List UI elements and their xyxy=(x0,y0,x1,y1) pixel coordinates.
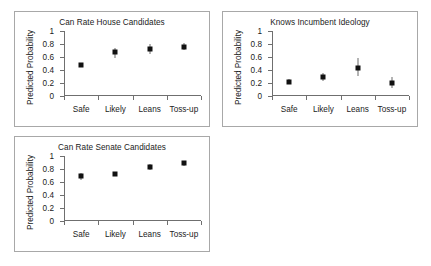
y-axis-tick-label: 1 xyxy=(49,27,54,36)
data-point-marker xyxy=(113,171,118,176)
panel-knows-incumbent-ideology: Knows Incumbent Ideology Predicted Proba… xyxy=(222,11,418,127)
x-axis-tick xyxy=(133,221,134,225)
x-axis-category-label: Leans xyxy=(346,105,368,114)
y-axis-label: Predicted Probability xyxy=(26,147,35,239)
y-axis-tick: 0.6 xyxy=(268,57,272,58)
panel-can-rate-senate-candidates: Can Rate Senate Candidates Predicted Pro… xyxy=(14,136,210,252)
x-axis-category-label: Toss-up xyxy=(170,105,199,114)
x-axis-tick xyxy=(306,96,307,100)
y-axis-tick-label: 0.4 xyxy=(43,66,54,75)
y-axis-tick-label: 0.6 xyxy=(43,53,54,62)
data-point-marker xyxy=(181,161,186,166)
y-axis-tick-label: 0 xyxy=(257,92,262,101)
data-point-marker xyxy=(389,81,394,86)
y-axis-tick-label: 0.2 xyxy=(43,204,54,213)
x-axis-tick xyxy=(167,96,168,100)
y-axis-line xyxy=(64,156,65,221)
x-axis-tick xyxy=(201,96,202,100)
y-axis-label: Predicted Probability xyxy=(26,22,35,114)
x-axis-tick xyxy=(167,221,168,225)
plot-area-knows: 10.80.60.40.20SafeLikelyLeansToss-up xyxy=(272,31,409,96)
plot-area-house: 10.80.60.40.20SafeLikelyLeansToss-up xyxy=(64,31,201,96)
y-axis-tick: 1 xyxy=(268,31,272,32)
x-axis-tick xyxy=(98,221,99,225)
x-axis-category-label: Safe xyxy=(281,105,298,114)
y-axis-tick: 1 xyxy=(60,156,64,157)
data-point-marker xyxy=(79,63,84,68)
x-axis-tick xyxy=(341,96,342,100)
x-axis-category-label: Toss-up xyxy=(378,105,407,114)
y-axis-tick-label: 0.2 xyxy=(251,79,262,88)
x-axis-tick xyxy=(201,221,202,225)
y-axis-tick-label: 0.6 xyxy=(43,178,54,187)
x-axis-category-label: Toss-up xyxy=(170,230,199,239)
x-axis-tick xyxy=(409,96,410,100)
y-axis-tick-label: 0.4 xyxy=(43,191,54,200)
data-point-marker xyxy=(79,174,84,179)
y-axis-tick: 0.2 xyxy=(268,83,272,84)
x-axis-category-label: Safe xyxy=(73,105,90,114)
x-axis-tick xyxy=(272,96,273,100)
panel-title: Can Rate House Candidates xyxy=(15,18,209,27)
panel-title: Knows Incumbent Ideology xyxy=(223,18,417,27)
y-axis-label: Predicted Probability xyxy=(234,22,243,114)
x-axis-category-label: Leans xyxy=(138,230,160,239)
y-axis-tick-label: 1 xyxy=(49,152,54,161)
y-axis-tick-label: 0.2 xyxy=(43,79,54,88)
y-axis-line xyxy=(64,31,65,96)
y-axis-tick-label: 0.8 xyxy=(251,40,262,49)
x-axis-tick xyxy=(98,96,99,100)
y-axis-tick: 0.8 xyxy=(60,44,64,45)
y-axis-tick: 0.8 xyxy=(268,44,272,45)
plot-area-senate: 10.80.60.40.20SafeLikelyLeansToss-up xyxy=(64,156,201,221)
y-axis-tick: 1 xyxy=(60,31,64,32)
y-axis-tick-label: 0.8 xyxy=(43,165,54,174)
y-axis-tick: 0.4 xyxy=(60,195,64,196)
y-axis-tick: 0.6 xyxy=(60,182,64,183)
x-axis-category-label: Likely xyxy=(313,105,334,114)
panel-title: Can Rate Senate Candidates xyxy=(15,143,209,152)
y-axis-tick-label: 0 xyxy=(49,92,54,101)
y-axis-tick-label: 1 xyxy=(257,27,262,36)
data-point-marker xyxy=(321,75,326,80)
figure-panels: Can Rate House Candidates Predicted Prob… xyxy=(0,0,431,266)
x-axis-tick xyxy=(133,96,134,100)
y-axis-line xyxy=(272,31,273,96)
data-point-marker xyxy=(113,50,118,55)
y-axis-tick: 0.6 xyxy=(60,57,64,58)
x-axis-tick xyxy=(375,96,376,100)
data-point-marker xyxy=(181,44,186,49)
y-axis-tick: 0.2 xyxy=(60,208,64,209)
x-axis-category-label: Likely xyxy=(105,105,126,114)
y-axis-tick: 0.8 xyxy=(60,169,64,170)
x-axis-tick xyxy=(64,96,65,100)
data-point-marker xyxy=(147,46,152,51)
data-point-marker xyxy=(147,165,152,170)
x-axis-category-label: Safe xyxy=(73,230,90,239)
y-axis-tick-label: 0 xyxy=(49,217,54,226)
y-axis-tick: 0.4 xyxy=(60,70,64,71)
y-axis-tick-label: 0.4 xyxy=(251,66,262,75)
y-axis-tick-label: 0.8 xyxy=(43,40,54,49)
panel-can-rate-house-candidates: Can Rate House Candidates Predicted Prob… xyxy=(14,11,210,127)
data-point-marker xyxy=(287,79,292,84)
y-axis-tick: 0.2 xyxy=(60,83,64,84)
y-axis-tick: 0.4 xyxy=(268,70,272,71)
data-point-marker xyxy=(355,66,360,71)
y-axis-tick-label: 0.6 xyxy=(251,53,262,62)
x-axis-category-label: Likely xyxy=(105,230,126,239)
x-axis-tick xyxy=(64,221,65,225)
x-axis-category-label: Leans xyxy=(138,105,160,114)
